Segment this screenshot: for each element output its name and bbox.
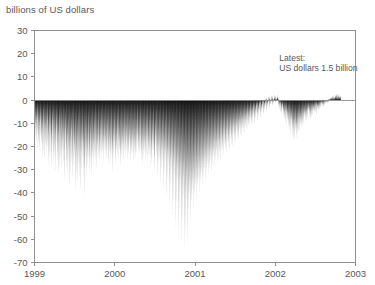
y-axis-tick-label: 10 (17, 71, 28, 82)
x-axis-tick-label: 2002 (265, 268, 286, 279)
series-area-net-position (35, 93, 342, 255)
x-axis-tick-label: 2003 (345, 268, 366, 279)
y-axis-tick-label: -20 (14, 141, 28, 152)
x-axis-tick-label: 2000 (104, 268, 125, 279)
x-axis-tick-labels: 19992000200120022003 (24, 268, 366, 279)
x-axis-tick-label: 1999 (24, 268, 45, 279)
y-axis-tick-label: -10 (14, 118, 28, 129)
y-axis-tick-label: 30 (17, 25, 28, 36)
x-axis-tick-marks (35, 263, 356, 267)
y-axis-tick-label: -50 (14, 211, 28, 222)
y-axis-tick-label: -30 (14, 164, 28, 175)
y-axis-tick-label: -60 (14, 234, 28, 245)
y-axis-tick-label: 20 (17, 48, 28, 59)
x-axis-tick-label: 2001 (184, 268, 205, 279)
y-axis-tick-labels: 3020100-10-20-30-40-50-60-70 (14, 25, 28, 268)
y-axis-tick-label: -70 (14, 257, 28, 268)
latest-value-annotation-line2: US dollars 1.5 billion (279, 63, 358, 73)
y-axis-tick-label: 0 (22, 95, 27, 106)
y-axis-tick-marks (31, 31, 35, 263)
chart-annotations: Latest:US dollars 1.5 billion (279, 53, 358, 74)
chart-root: billions of US dollars 3020100-10-20-30-… (0, 0, 375, 285)
latest-value-annotation-line1: Latest: (279, 53, 305, 63)
y-axis-tick-label: -40 (14, 187, 28, 198)
chart-plot: 3020100-10-20-30-40-50-60-70 19992000200… (0, 0, 375, 285)
